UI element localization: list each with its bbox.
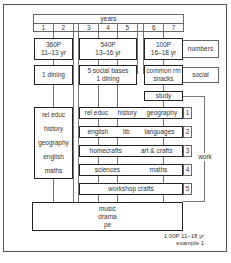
year-2: 2 <box>53 24 73 31</box>
study-box: study <box>144 91 183 101</box>
middle-social-2: 1 dining <box>97 75 120 83</box>
social-label-box: social <box>183 67 219 83</box>
row-number: 2 <box>186 128 190 136</box>
year-numbers-row: 1 2 3 4 5 6 7 <box>33 23 184 32</box>
shared-box: music drama pe <box>32 202 183 231</box>
year-4: 4 <box>98 24 117 31</box>
work-subject: rel educ <box>85 109 108 117</box>
upper-count: 100P <box>156 41 171 49</box>
year-5: 5 <box>117 24 137 31</box>
work-row-index: 5 <box>183 183 192 195</box>
middle-social-box: 5 social bases 1 dining <box>79 65 137 85</box>
work-subject: history <box>118 109 137 117</box>
lower-subjects-box: rel educ history geography english maths <box>34 107 73 179</box>
row-number: 5 <box>186 185 190 193</box>
lower-subject: english <box>35 153 72 161</box>
shared-pe: pe <box>104 221 111 229</box>
middle-social-1: 5 social bases <box>87 67 128 75</box>
work-row-2: english lib languages <box>79 126 183 138</box>
footer-example: example 1 <box>120 240 204 247</box>
lower-subject: history <box>35 125 72 133</box>
work-subject: art & crafts <box>141 147 172 155</box>
work-label: work <box>192 153 218 161</box>
work-subject: sciences <box>95 166 120 174</box>
numbers-label: numbers <box>188 45 213 53</box>
upper-age: 16–18 yr <box>151 49 176 57</box>
year-7: 7 <box>163 24 183 31</box>
lower-numbers-box: 360P 11–13 yr <box>34 38 73 60</box>
years-title: years <box>101 15 117 23</box>
footer-total: 1 00P 11–18 yr <box>120 233 204 240</box>
row-number: 1 <box>186 109 190 117</box>
work-subject: lib <box>123 128 130 136</box>
work-subject: languages <box>145 128 175 136</box>
work-row-4: sciences maths <box>79 164 183 176</box>
footer-caption: 1 00P 11–18 yr example 1 <box>120 233 204 247</box>
upper-social-2: snacks <box>153 75 173 83</box>
shared-music: music <box>99 205 116 213</box>
work-subject: workshop crafts <box>108 185 154 193</box>
social-label: social <box>192 71 209 79</box>
year-6: 6 <box>143 24 163 31</box>
lower-count: 360P <box>46 41 61 49</box>
lower-subject: rel educ <box>35 111 72 119</box>
work-subject: maths <box>150 166 168 174</box>
study-label: study <box>156 92 172 100</box>
lower-social: 1 dining <box>42 71 65 79</box>
work-row-index: 3 <box>183 145 192 157</box>
upper-social-1: common rm <box>146 67 180 75</box>
middle-age: 13–16 yr <box>95 49 120 57</box>
work-row-1: rel educ history geography <box>79 107 183 119</box>
work-row-5: workshop crafts <box>79 183 183 195</box>
lower-subject: maths <box>35 167 72 175</box>
row-number: 3 <box>186 147 190 155</box>
work-subject: geography <box>146 109 177 117</box>
lower-social-box: 1 dining <box>34 65 73 85</box>
upper-numbers-box: 100P 16–18 yr <box>144 38 183 60</box>
lower-subject: geography <box>35 139 72 147</box>
shared-drama: drama <box>98 213 116 221</box>
work-row-index: 4 <box>183 164 192 176</box>
numbers-label-box: numbers <box>183 40 219 58</box>
work-row-3: homecrafts art & crafts <box>79 145 183 157</box>
work-row-index: 1 <box>183 107 192 119</box>
middle-numbers-box: 540P 13–16 yr <box>79 38 137 60</box>
lower-age: 11–13 yr <box>41 49 66 57</box>
row-number: 4 <box>186 166 190 174</box>
work-row-index: 2 <box>183 126 192 138</box>
middle-count: 540P <box>100 41 115 49</box>
year-3: 3 <box>78 24 98 31</box>
upper-social-box: common rm snacks <box>144 65 183 85</box>
work-subject: english <box>87 128 108 136</box>
work-subject: homecrafts <box>90 147 122 155</box>
year-1: 1 <box>34 24 53 31</box>
